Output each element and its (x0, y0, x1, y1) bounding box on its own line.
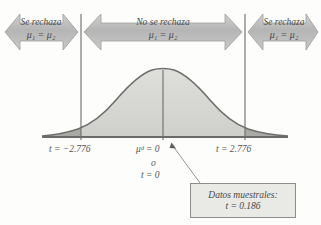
statistics-figure: Se rechaza μ₁ = μ₂ No se rechaza μ₁ = μ₂… (0, 0, 321, 225)
center-nonrejection-banner-shape (84, 14, 242, 50)
callout-line1: Datos muestrales: (208, 190, 277, 200)
callout-leader-arrowhead (170, 143, 177, 149)
center-mean-label: μᵈ = 0 (136, 144, 160, 154)
center-t-label: t = 0 (141, 170, 160, 180)
callout-leader-line (173, 146, 200, 183)
left-critical-value-label: t = −2.776 (49, 144, 91, 154)
right-critical-value-label: t = 2.776 (216, 144, 251, 154)
right-rejection-banner-shape (248, 14, 318, 50)
left-rejection-banner-shape (5, 14, 78, 50)
distribution-curve-area (42, 69, 288, 138)
center-or-label: o (151, 158, 156, 168)
callout-line2: t = 0.186 (225, 201, 260, 211)
sample-data-callout: Datos muestrales: t = 0.186 (190, 183, 296, 218)
